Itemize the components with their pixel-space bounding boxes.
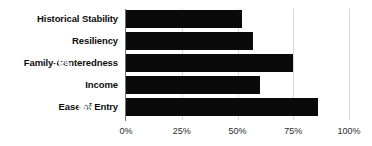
bar-chart: Historical Stability Resiliency Family-C… xyxy=(0,0,372,146)
gridline-100 xyxy=(349,9,350,120)
x-tick-label-100: 100% xyxy=(337,124,360,138)
x-tick-label-25: 25% xyxy=(173,124,191,138)
x-tick-label-0: 0% xyxy=(119,124,132,138)
category-label-income: Income xyxy=(85,76,118,94)
bar-family-centeredness[interactable] xyxy=(126,54,293,72)
bar-value-resiliency: 57% xyxy=(13,32,30,50)
category-label-historical-stability: Historical Stability xyxy=(37,10,118,28)
bar-historical-stability[interactable] xyxy=(126,10,242,28)
bar-value-ease-of-entry: 86% xyxy=(78,98,95,116)
category-label-resiliency: Resiliency xyxy=(72,32,118,50)
bar-income[interactable] xyxy=(126,76,260,94)
bar-resiliency[interactable] xyxy=(126,32,253,50)
plot-area: 52% 57% 75% 60% 86% xyxy=(126,10,349,120)
bar-value-historical-stability: 52% xyxy=(2,10,19,28)
x-axis-tick-labels: 0% 25% 50% 75% 100% xyxy=(0,124,372,140)
category-label-family-centeredness: Family-Centeredness xyxy=(24,54,118,72)
bar-value-income: 60% xyxy=(20,76,37,94)
x-tick-label-75: 75% xyxy=(284,124,302,138)
x-tick-label-50: 50% xyxy=(228,124,246,138)
bar-ease-of-entry[interactable] xyxy=(126,98,318,116)
bar-value-family-centeredness: 75% xyxy=(54,54,71,72)
